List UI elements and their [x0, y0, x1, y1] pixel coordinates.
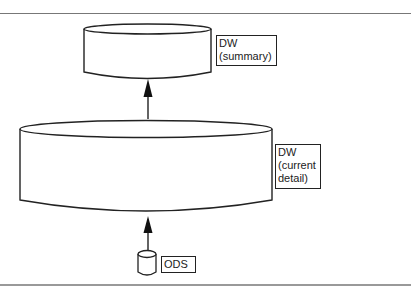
- ods-cylinder: [138, 251, 156, 276]
- dw-current-label-line3: detail): [278, 172, 318, 185]
- dw-summary-label-line1: DW: [219, 37, 274, 50]
- dw-current-detail-cylinder: [20, 121, 272, 212]
- dw-summary-label: DW (summary): [216, 35, 277, 66]
- bottom-rule: [0, 284, 411, 286]
- arrow-to-summary: [144, 79, 153, 119]
- ods-label: ODS: [161, 256, 196, 273]
- ods-label-line1: ODS: [164, 258, 193, 271]
- dw-current-label-line2: (current: [278, 159, 318, 172]
- dw-summary-cylinder: [84, 24, 211, 79]
- arrow-to-current-detail: [144, 216, 153, 250]
- dw-summary-label-line2: (summary): [219, 50, 274, 63]
- dw-current-label-line1: DW: [278, 146, 318, 159]
- dw-current-detail-label: DW (current detail): [275, 144, 321, 189]
- diagram-canvas: [0, 0, 411, 297]
